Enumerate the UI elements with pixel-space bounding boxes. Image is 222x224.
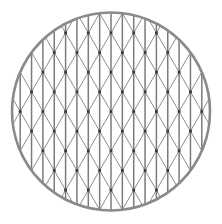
lattice-node xyxy=(87,110,90,113)
lattice-node xyxy=(132,149,135,152)
lattice-node xyxy=(42,149,45,152)
lattice-node xyxy=(110,110,113,113)
lattice-node xyxy=(30,130,33,133)
lattice-node xyxy=(121,130,124,133)
lattice-node xyxy=(64,189,67,192)
lattice-node xyxy=(155,189,158,192)
lattice-node xyxy=(53,130,56,133)
lattice-node xyxy=(76,169,79,172)
lattice-node xyxy=(98,51,101,54)
lattice-node xyxy=(144,169,147,172)
lattice-node xyxy=(110,31,113,34)
lattice-node xyxy=(53,90,56,93)
lattice-node xyxy=(166,169,169,172)
lattice-node xyxy=(121,90,124,93)
lattice-node xyxy=(189,90,192,93)
lattice-node xyxy=(132,189,135,192)
lattice-node xyxy=(144,90,147,93)
lattice-node xyxy=(121,51,124,54)
lattice-node xyxy=(166,51,169,54)
lattice-node xyxy=(178,110,181,113)
lattice-node xyxy=(144,51,147,54)
lattice-node xyxy=(155,110,158,113)
lattice-node xyxy=(64,71,67,74)
lattice-node xyxy=(19,110,22,113)
lattice-node xyxy=(121,169,124,172)
lattice-node xyxy=(110,149,113,152)
lattice-node xyxy=(87,31,90,34)
lattice-node xyxy=(98,130,101,133)
lattice-node xyxy=(87,71,90,74)
lattice-node xyxy=(42,71,45,74)
lattice-node xyxy=(76,90,79,93)
lattice-node xyxy=(110,189,113,192)
lattice-node xyxy=(53,169,56,172)
lattice-node xyxy=(64,149,67,152)
lattice-node xyxy=(155,31,158,34)
lattice-node xyxy=(76,130,79,133)
lattice-node xyxy=(132,71,135,74)
lattice-node xyxy=(132,31,135,34)
lattice-node xyxy=(98,169,101,172)
lattice-node xyxy=(178,149,181,152)
lattice-node xyxy=(144,130,147,133)
lattice-node xyxy=(132,110,135,113)
lattice-node xyxy=(76,51,79,54)
lattice-node xyxy=(64,31,67,34)
circular-lattice-diagram xyxy=(0,0,222,224)
lattice-node xyxy=(87,189,90,192)
lattice-node xyxy=(53,51,56,54)
lattice-node xyxy=(189,130,192,133)
lattice-node xyxy=(178,71,181,74)
figure-root xyxy=(0,0,222,224)
lattice-node xyxy=(166,90,169,93)
lattice-node xyxy=(166,130,169,133)
lattice-node xyxy=(98,90,101,93)
lattice-node xyxy=(155,149,158,152)
lattice-node xyxy=(200,110,203,113)
lattice-node xyxy=(155,71,158,74)
lattice-node xyxy=(30,90,33,93)
lattice-node xyxy=(64,110,67,113)
lattice-node xyxy=(110,71,113,74)
lattice-node xyxy=(42,110,45,113)
lattice-node xyxy=(87,149,90,152)
